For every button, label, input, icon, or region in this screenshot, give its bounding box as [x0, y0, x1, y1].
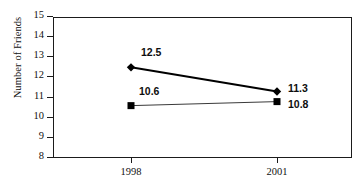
point-label-series-diamond-2001: 11.3 — [288, 82, 308, 94]
line-series-square — [131, 102, 277, 106]
point-label-series-diamond-1998: 12.5 — [141, 46, 161, 58]
marker-series-square-2001 — [274, 98, 281, 105]
marker-series-diamond-1998 — [127, 63, 135, 71]
data-layer — [0, 0, 364, 186]
point-label-series-square-1998: 10.6 — [139, 85, 159, 97]
marker-series-square-1998 — [128, 102, 135, 109]
line-chart: Number of Friends 89101112131415 1998200… — [0, 0, 364, 186]
point-label-series-square-2001: 10.8 — [288, 98, 308, 110]
marker-series-diamond-2001 — [273, 87, 281, 95]
